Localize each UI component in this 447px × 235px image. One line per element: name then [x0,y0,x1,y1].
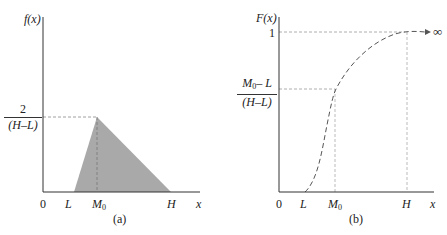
x-tick-l-a: L [65,198,72,210]
peak-value-label: 2 (H–L) [4,103,42,132]
y-axis-label-b: F(x) [256,12,277,24]
m0-base: M [92,197,102,211]
y-one-label: 1 [269,27,275,39]
m0-base: M [328,197,338,211]
m0-subscript: 0 [102,203,106,212]
x-axis-label-b: x [430,198,435,210]
peak-numerator: 2 [4,103,42,116]
mid-minus-l: – L [256,76,272,90]
mid-m0-base: M [242,76,252,90]
mid-value-label: M0– L (H–L) [237,77,277,109]
arrowhead-icon [425,29,431,35]
mid-numerator: M0– L [237,77,277,93]
mid-denominator: (H–L) [237,96,277,109]
panel-a-graphic [43,17,200,192]
x-tick-h-b: H [402,198,411,210]
m0-subscript: 0 [338,203,342,212]
x-tick-l-b: L [300,198,307,210]
x-axis-label-a: x [196,198,201,210]
caption-a: (a) [113,213,126,225]
origin-label-b: 0 [276,198,282,210]
x-tick-h-a: H [167,198,176,210]
x-tick-m0-b: M0 [328,198,342,214]
origin-label-a: 0 [40,198,46,210]
panel-b-graphic [279,17,434,192]
caption-b: (b) [349,213,363,225]
infinity-label: ∞ [433,26,442,38]
y-axis-label-a: f(x) [24,13,41,25]
peak-denominator: (H–L) [4,119,42,132]
triangle-distribution-area [74,117,171,192]
x-tick-m0-a: M0 [92,198,106,214]
